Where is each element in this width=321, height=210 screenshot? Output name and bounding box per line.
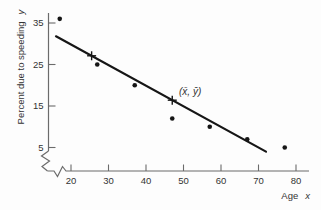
data-layer xyxy=(56,17,287,152)
y-tick-label: 15 xyxy=(33,100,44,111)
x-tick-label: 60 xyxy=(216,175,227,186)
y-axis-break-squiggle xyxy=(42,151,50,171)
y-axis-title: Percent due to speedingy xyxy=(15,8,26,124)
y-axis-variable: y xyxy=(15,8,26,15)
x-axis-variable: x xyxy=(304,190,311,201)
x-tick-label: 20 xyxy=(66,175,77,186)
x-tick-label: 30 xyxy=(103,175,114,186)
data-point xyxy=(282,145,287,150)
y-axis-ticks: 5152535 xyxy=(33,17,56,153)
scatterplot-figure: 20304050607080 5152535 Percent due to sp… xyxy=(0,0,321,210)
y-tick-label: 5 xyxy=(38,142,43,153)
x-axis-ticks: 20304050607080 xyxy=(66,165,302,186)
data-point xyxy=(170,116,175,121)
x-axis-title-text: Age xyxy=(281,190,298,201)
regression-line xyxy=(56,36,266,151)
y-axis-title-text: Percent due to speeding xyxy=(15,21,26,124)
chart-svg: 20304050607080 5152535 Percent due to sp… xyxy=(0,0,321,210)
x-axis-title: Agex xyxy=(281,190,311,201)
data-point xyxy=(207,124,212,129)
y-tick-label: 25 xyxy=(33,59,44,70)
x-tick-label: 50 xyxy=(178,175,189,186)
data-point xyxy=(132,83,137,88)
x-tick-label: 40 xyxy=(141,175,152,186)
data-point xyxy=(95,62,100,67)
data-point xyxy=(57,17,62,22)
mean-point-label: (x̄, ȳ) xyxy=(179,86,201,97)
y-tick-label: 35 xyxy=(33,17,44,28)
x-tick-label: 70 xyxy=(253,175,264,186)
data-point xyxy=(245,137,250,142)
x-tick-label: 80 xyxy=(291,175,302,186)
